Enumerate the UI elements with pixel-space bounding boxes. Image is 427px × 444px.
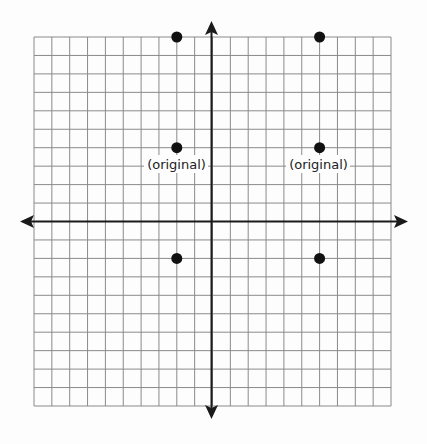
- plot-point: [314, 32, 325, 43]
- label-left-original: (original): [147, 157, 206, 172]
- plot-point: [171, 142, 182, 153]
- coordinate-grid: (original) (original): [0, 0, 427, 444]
- plot-point: [171, 32, 182, 43]
- plot-point: [314, 142, 325, 153]
- plot-point: [314, 253, 325, 264]
- label-right-original: (original): [289, 157, 348, 172]
- plot-point: [171, 253, 182, 264]
